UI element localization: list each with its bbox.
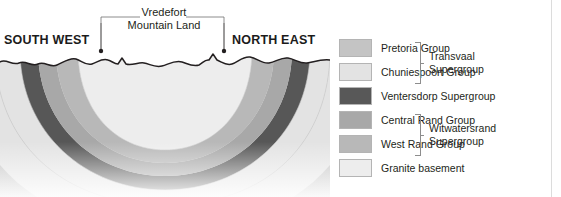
legend-swatch-west-rand-group xyxy=(339,135,372,153)
vredefort-mountain-land-label: Vredefort Mountain Land xyxy=(108,6,220,32)
direction-label-south-west: SOUTH WEST xyxy=(4,33,89,47)
legend-item-granite-basement: Granite basement xyxy=(339,156,554,180)
legend-swatch-ventersdorp-supergroup xyxy=(339,87,372,105)
legend-swatch-pretoria-group xyxy=(339,39,372,57)
bracket-transvaal-supergroup xyxy=(415,42,421,84)
legend-label-ventersdorp-supergroup: Ventersdorp Supergroup xyxy=(381,90,495,102)
vredefort-label-line1: Vredefort xyxy=(108,6,220,19)
direction-label-north-east: NORTH EAST xyxy=(232,33,315,47)
vredefort-label-line2: Mountain Land xyxy=(108,19,220,32)
group-label-transvaal-line2: Supergroup xyxy=(429,63,484,76)
legend-swatch-central-rand-group xyxy=(339,111,372,129)
legend: Pretoria Group Chuniespoort Group Venter… xyxy=(339,36,554,180)
group-label-witwatersrand-supergroup: Witwatersrand Supergroup xyxy=(429,122,496,148)
right-edge-rule xyxy=(551,0,552,197)
group-label-transvaal-supergroup: Transvaal Supergroup xyxy=(429,50,484,76)
bracket-witwatersrand-supergroup xyxy=(415,114,421,156)
group-label-witwatersrand-line2: Supergroup xyxy=(429,135,496,148)
cross-section-diagram: SOUTH WEST NORTH EAST Vredefort Mountain… xyxy=(0,0,330,197)
group-label-transvaal-line1: Transvaal xyxy=(429,50,484,63)
legend-label-granite-basement: Granite basement xyxy=(381,162,464,174)
legend-swatch-granite-basement xyxy=(339,159,372,177)
legend-item-ventersdorp-supergroup: Ventersdorp Supergroup xyxy=(339,84,554,108)
group-label-witwatersrand-line1: Witwatersrand xyxy=(429,122,496,135)
legend-swatch-chuniespoort-group xyxy=(339,63,372,81)
